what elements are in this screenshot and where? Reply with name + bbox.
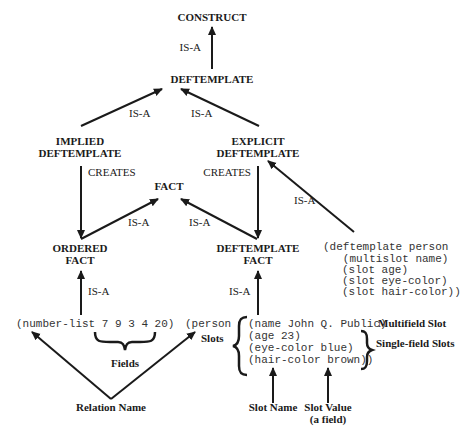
svg-text:(hair-color brown)): (hair-color brown)) xyxy=(248,354,373,366)
edge-label-creates: CREATES xyxy=(203,166,251,178)
node-explicit-deftemplate-line1: EXPLICIT xyxy=(231,135,285,147)
single-field-slots-label: Single-field Slots xyxy=(376,337,455,349)
edge-label-isa: IS-A xyxy=(180,41,201,53)
fields-brace xyxy=(95,332,155,350)
fact-hierarchy-diagram: CONSTRUCT DEFTEMPLATE IMPLIED DEFTEMPLAT… xyxy=(0,0,466,439)
node-explicit-deftemplate-line2: DEFTEMPLATE xyxy=(217,147,300,159)
edge-label-isa: IS-A xyxy=(189,216,210,228)
node-deftemplate-fact-line1: DEFTEMPLATE xyxy=(217,242,300,254)
ordered-fact-example: (number-list 7 9 3 4 20) xyxy=(16,318,174,330)
edge-label-isa: IS-A xyxy=(88,285,109,297)
svg-text:(name John Q. Public): (name John Q. Public) xyxy=(248,318,387,330)
node-ordered-fact-line1: ORDERED xyxy=(52,242,107,254)
slot-value-label-line1: Slot Value xyxy=(304,401,351,413)
svg-text:(deftemplate person: (deftemplate person xyxy=(323,241,448,253)
edge-label-isa: IS-A xyxy=(128,216,149,228)
person-head: (person xyxy=(185,318,231,330)
slots-label: Slots xyxy=(201,332,224,344)
node-ordered-fact-line2: FACT xyxy=(65,254,95,266)
multifield-slot-label: Multifield Slot xyxy=(378,317,446,329)
edge-label-isa: IS-A xyxy=(129,107,150,119)
fields-label: Fields xyxy=(111,357,140,369)
node-deftemplate-fact-line2: FACT xyxy=(243,254,273,266)
edge-label-isa: IS-A xyxy=(229,285,250,297)
edge-label-isa: IS-A xyxy=(294,194,315,206)
relation-name-label: Relation Name xyxy=(76,401,146,413)
edge-label-isa: IS-A xyxy=(191,107,212,119)
node-fact: FACT xyxy=(154,180,184,192)
svg-text:(age 23): (age 23) xyxy=(248,330,301,342)
deftemplate-code-block: (deftemplate person (multislot name) (sl… xyxy=(323,241,461,298)
node-construct: CONSTRUCT xyxy=(177,11,247,23)
edge-label-creates: CREATES xyxy=(88,166,136,178)
node-deftemplate: DEFTEMPLATE xyxy=(171,73,254,85)
node-implied-deftemplate-line1: IMPLIED xyxy=(56,135,104,147)
slot-name-label: Slot Name xyxy=(249,401,298,413)
slot-value-label-line2: (a field) xyxy=(310,413,347,426)
slots-brace xyxy=(233,317,247,375)
node-implied-deftemplate-line2: DEFTEMPLATE xyxy=(39,147,122,159)
svg-text:(eye-color blue): (eye-color blue) xyxy=(248,342,354,354)
svg-text:(slot hair-color)): (slot hair-color)) xyxy=(342,286,461,298)
